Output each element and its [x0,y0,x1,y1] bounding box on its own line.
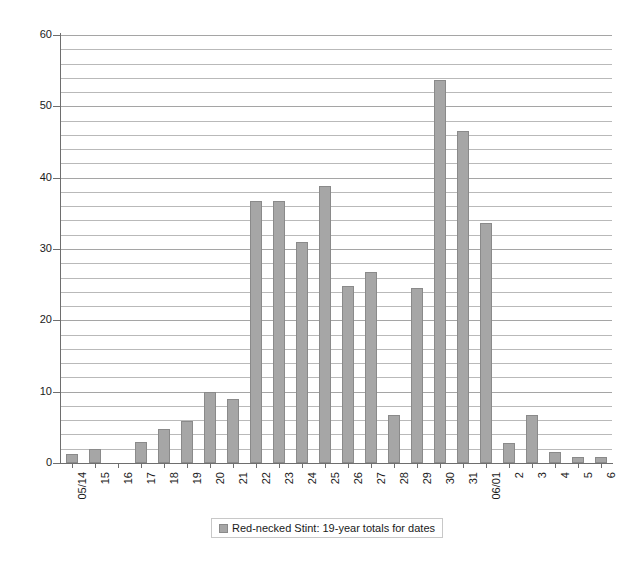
x-tick-label: 24 [307,472,318,484]
y-tick-mark [53,463,60,464]
legend-label: Red-necked Stint: 19-year totals for dat… [232,522,435,534]
bar [135,442,147,463]
x-tick-mark [95,463,96,468]
x-tick-label: 3 [537,472,548,478]
x-tick-mark [141,463,142,468]
y-tick-mark [53,392,60,393]
bar [181,421,193,463]
x-tick-mark [187,463,188,468]
x-tick-label: 29 [422,472,433,484]
x-tick-label: 20 [215,472,226,484]
bar-series [60,35,612,463]
x-tick-mark [463,463,464,468]
bar [204,392,216,463]
y-tick-label: 40 [6,172,52,183]
x-tick-mark [72,463,73,468]
x-tick-mark [578,463,579,468]
bar [89,449,101,463]
x-tick-mark [233,463,234,468]
x-tick-mark [555,463,556,468]
x-tick-mark [348,463,349,468]
x-tick-mark [601,463,602,468]
chart-legend: Red-necked Stint: 19-year totals for dat… [211,518,443,538]
y-tick-mark [53,35,60,36]
bar [480,223,492,463]
y-tick-mark [53,320,60,321]
y-tick-label: 50 [6,100,52,111]
y-tick-mark [53,249,60,250]
x-tick-label: 28 [399,472,410,484]
bar [411,288,423,463]
x-tick-mark [371,463,372,468]
x-tick-label: 4 [560,472,571,478]
x-tick-label: 16 [123,472,134,484]
y-tick-mark [53,178,60,179]
x-tick-label: 25 [330,472,341,484]
y-tick-label: 0 [6,457,52,468]
x-tick-mark [118,463,119,468]
bar [503,443,515,463]
bar [273,201,285,464]
bar [250,201,262,464]
bar [549,452,561,463]
bar [457,131,469,463]
bar-chart: 0102030405060 05/14151617181920212223242… [0,0,630,561]
y-tick-label: 20 [6,314,52,325]
x-axis-line [53,463,613,464]
y-tick-mark [53,106,60,107]
x-tick-mark [509,463,510,468]
x-tick-label: 6 [606,472,617,478]
x-tick-mark [279,463,280,468]
bar [388,415,400,463]
y-tick-label: 10 [6,386,52,397]
x-tick-label: 23 [284,472,295,484]
bar [526,415,538,463]
x-tick-label: 31 [468,472,479,484]
x-tick-label: 06/01 [491,472,502,500]
x-tick-mark [440,463,441,468]
bar [365,272,377,463]
x-tick-mark [210,463,211,468]
x-tick-mark [417,463,418,468]
bar [158,429,170,463]
bar [296,242,308,463]
x-tick-label: 21 [238,472,249,484]
x-tick-mark [394,463,395,468]
bar [227,399,239,463]
x-tick-label: 2 [514,472,525,478]
x-tick-label: 5 [583,472,594,478]
y-tick-label: 60 [6,29,52,40]
x-tick-label: 17 [146,472,157,484]
legend-swatch-icon [219,524,228,533]
x-tick-mark [164,463,165,468]
x-tick-label: 19 [192,472,203,484]
y-tick-label: 30 [6,243,52,254]
x-tick-mark [256,463,257,468]
x-tick-mark [532,463,533,468]
x-tick-label: 26 [353,472,364,484]
x-tick-label: 27 [376,472,387,484]
x-tick-label: 05/14 [77,472,88,500]
bar [434,80,446,463]
bar [342,286,354,463]
x-tick-mark [486,463,487,468]
x-tick-label: 22 [261,472,272,484]
bar [319,186,331,463]
x-tick-mark [325,463,326,468]
x-tick-label: 18 [169,472,180,484]
x-tick-mark [302,463,303,468]
x-tick-label: 30 [445,472,456,484]
bar [66,454,78,463]
x-tick-label: 15 [100,472,111,484]
